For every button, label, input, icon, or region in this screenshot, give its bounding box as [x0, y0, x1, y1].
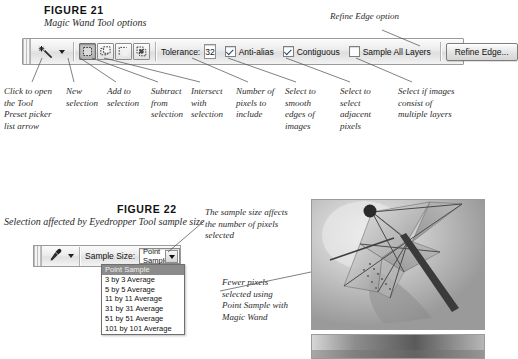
sample-size-combobox[interactable]: Point Sample [139, 248, 180, 264]
callout-refine-edge-option: Refine Edge option [330, 11, 450, 23]
figure-21-caption: Magic Wand Tool options [44, 17, 146, 28]
anti-alias-checkbox[interactable] [225, 46, 236, 57]
options-bar-grip[interactable] [34, 246, 42, 266]
divider [79, 247, 80, 266]
chevron-down-icon[interactable] [68, 254, 74, 258]
callout-adjacent-pixels: Select to select adjacent pixels [340, 86, 383, 132]
magic-wand-icon[interactable] [37, 43, 54, 60]
new-selection-button[interactable] [79, 43, 96, 60]
figure-22-label: FIGURE 22 [117, 203, 177, 215]
tolerance-input[interactable]: 32 [204, 44, 215, 59]
anti-alias-label: Anti-alias [239, 47, 274, 57]
dropdown-option-31x31[interactable]: 31 by 31 Average [102, 304, 184, 314]
dropdown-option-point-sample[interactable]: Point Sample [102, 265, 184, 275]
sample-size-dropdown-list[interactable]: Point Sample 3 by 3 Average 5 by 5 Avera… [101, 264, 185, 335]
selection-mode-group [79, 43, 150, 60]
callout-tool-preset-picker: Click to open the Tool Preset picker lis… [4, 86, 66, 132]
callout-sample-size-note: The sample size affects the number of pi… [205, 207, 295, 242]
eyedropper-tool-preset-picker[interactable] [42, 247, 74, 266]
dropdown-option-51x51[interactable]: 51 by 51 Average [102, 314, 184, 324]
divider [440, 42, 441, 61]
dropdown-option-3x3[interactable]: 3 by 3 Average [102, 275, 184, 285]
callout-fewer-pixels-note: Fewer pixels selected using Point Sample… [222, 277, 290, 323]
figure-21-label: FIGURE 21 [44, 4, 104, 16]
divider [73, 42, 74, 61]
eyedropper-icon[interactable] [48, 247, 63, 266]
sample-all-layers-label: Sample All Layers [363, 47, 431, 57]
cocktail-umbrella-photo [311, 199, 485, 330]
add-to-selection-button[interactable] [97, 43, 114, 60]
sample-all-layers-checkbox[interactable] [349, 46, 360, 57]
callout-multiple-layers: Select if images consist of multiple lay… [398, 86, 478, 121]
magic-wand-options-bar: Tolerance: 32 Anti-alias Contiguous Samp… [22, 38, 464, 65]
dropdown-option-5x5[interactable]: 5 by 5 Average [102, 285, 184, 295]
tolerance-label: Tolerance: [161, 47, 200, 57]
sample-all-layers-checkbox-row[interactable]: Sample All Layers [349, 46, 431, 57]
callout-number-of-pixels: Number of pixels to include [236, 86, 282, 121]
contiguous-checkbox[interactable] [283, 46, 294, 57]
photo-strip-below [311, 334, 485, 359]
callout-smooth-edges: Select to smooth edges of images [285, 86, 329, 132]
contiguous-label: Contiguous [297, 47, 340, 57]
chevron-down-icon [169, 255, 175, 259]
intersect-with-selection-button[interactable] [133, 43, 150, 60]
chevron-down-icon[interactable] [59, 50, 65, 54]
sample-size-label: Sample Size: [85, 251, 135, 261]
contiguous-checkbox-row[interactable]: Contiguous [283, 46, 340, 57]
tool-preset-picker[interactable] [31, 43, 68, 60]
figure-22-caption: Selection affected by Eyedropper Tool sa… [4, 216, 204, 227]
callout-subtract-from-selection: Subtract from selection [151, 86, 191, 121]
refine-edge-button[interactable]: Refine Edge... [446, 43, 518, 61]
callout-add-to-selection: Add to selection [107, 86, 151, 109]
callout-new-selection: New selection [66, 86, 107, 109]
dropdown-option-11x11[interactable]: 11 by 11 Average [102, 294, 184, 304]
subtract-from-selection-button[interactable] [115, 43, 132, 60]
anti-alias-checkbox-row[interactable]: Anti-alias [225, 46, 274, 57]
divider [155, 42, 156, 61]
dropdown-option-101x101[interactable]: 101 by 101 Average [102, 324, 184, 334]
sample-size-dropdown-button[interactable] [165, 250, 178, 263]
callout-intersect-with-selection: Intersect with selection [191, 86, 233, 121]
options-bar-grip[interactable] [23, 39, 31, 64]
